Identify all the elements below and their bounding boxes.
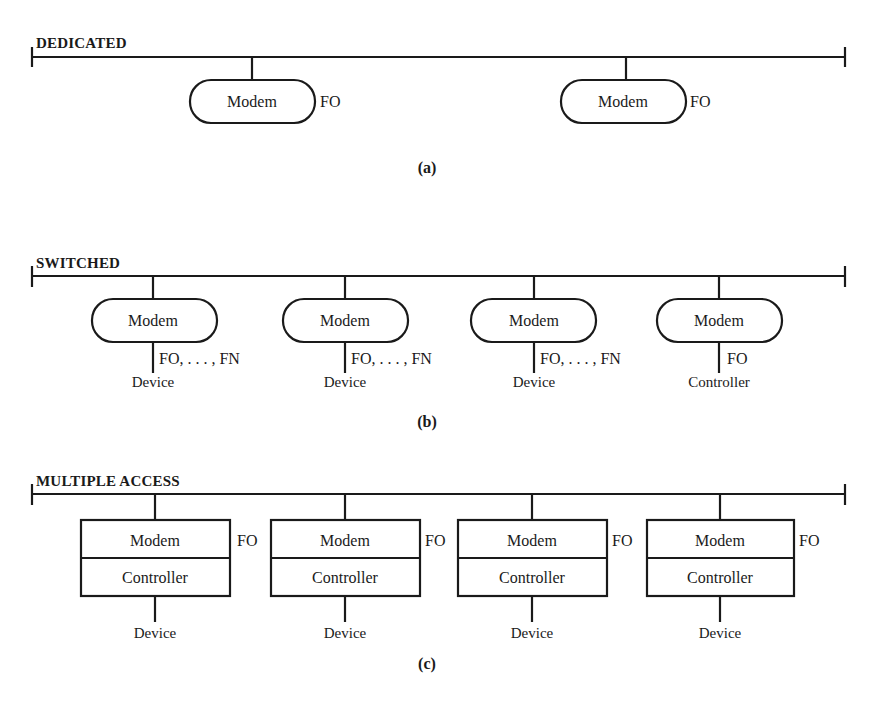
modem-label: Modem [507,533,557,549]
controller-label: Controller [687,570,753,586]
frequency-range-label: FO, . . . , FN [351,351,432,367]
caption-c: (c) [418,656,436,672]
modem-label: Modem [227,94,277,110]
device-label: Device [699,626,741,641]
frequency-label: FO [799,533,819,549]
panel-title-dedicated: DEDICATED [36,36,127,51]
device-label: Device [324,626,366,641]
frequency-label: FO [425,533,445,549]
modem-label: Modem [598,94,648,110]
device-label: Device [132,375,174,390]
frequency-label: FO [612,533,632,549]
frequency-range-label: FO, . . . , FN [540,351,621,367]
modem-label: Modem [320,313,370,329]
controller-label: Controller [499,570,565,586]
frequency-label: FO [690,94,710,110]
frequency-label: FO [237,533,257,549]
controller-label: Controller [122,570,188,586]
device-label: Device [134,626,176,641]
modem-label: Modem [320,533,370,549]
panel-title-multiple-access: MULTIPLE ACCESS [36,474,180,489]
frequency-label: FO [727,351,747,367]
caption-a: (a) [418,160,437,176]
device-label: Device [511,626,553,641]
bus-line-dedicated [32,47,845,67]
modem-label: Modem [130,533,180,549]
modem-label: Modem [128,313,178,329]
panel-title-switched: SWITCHED [36,256,120,271]
controller-label: Controller [312,570,378,586]
frequency-label: FO [320,94,340,110]
caption-b: (b) [417,414,437,430]
device-label: Device [324,375,366,390]
modem-label: Modem [695,533,745,549]
frequency-range-label: FO, . . . , FN [159,351,240,367]
device-label: Device [513,375,555,390]
modem-label: Modem [694,313,744,329]
modem-label: Modem [509,313,559,329]
controller-label: Controller [688,375,750,390]
